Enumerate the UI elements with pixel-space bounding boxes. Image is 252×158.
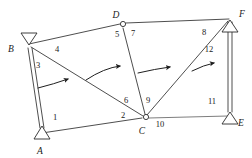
node-label-d: D: [112, 10, 120, 20]
member-label-4: 4: [55, 44, 60, 54]
truss-canvas: A B C D E F 1 2 3 4 5 6 7 8 9 10 11 12: [0, 0, 252, 158]
member-label-7: 7: [131, 28, 135, 38]
member-label-5: 5: [115, 29, 119, 39]
joint-circle-c: [143, 114, 148, 119]
member-label-3: 3: [36, 60, 40, 70]
node-label-c: C: [139, 126, 146, 136]
load-arrow-4: [192, 63, 214, 71]
support-triangle-f: [222, 20, 238, 32]
node-label-e: E: [237, 118, 244, 128]
member-6-line: [31, 47, 143, 116]
load-arrow-3: [138, 67, 170, 73]
node-label-a: A: [36, 146, 43, 156]
support-triangle-e: [222, 112, 238, 124]
member-label-1: 1: [53, 112, 57, 122]
member-label-6: 6: [124, 95, 128, 105]
member-10-line: [149, 116, 228, 118]
joint-circle-d: [120, 21, 125, 26]
node-label-b: B: [8, 44, 14, 54]
load-arrow-2: [86, 66, 120, 80]
member-label-12: 12: [205, 44, 214, 54]
member-label-2: 2: [121, 110, 125, 120]
member-label-11: 11: [208, 96, 216, 106]
member-8-line: [126, 19, 229, 23]
node-label-f: F: [238, 9, 245, 19]
member-label-10: 10: [156, 119, 165, 129]
truss-figure: A B C D E F 1 2 3 4 5 6 7 8 9 10 11 12: [0, 0, 252, 158]
member-labels-group: 1 2 3 4 5 6 7 8 9 10 11 12: [36, 27, 216, 129]
member-4-line: [29, 24, 120, 44]
load-arrow-1: [38, 79, 68, 88]
member-label-8: 8: [202, 27, 206, 37]
member-label-9: 9: [146, 95, 150, 105]
load-arrows-group: [38, 63, 214, 88]
